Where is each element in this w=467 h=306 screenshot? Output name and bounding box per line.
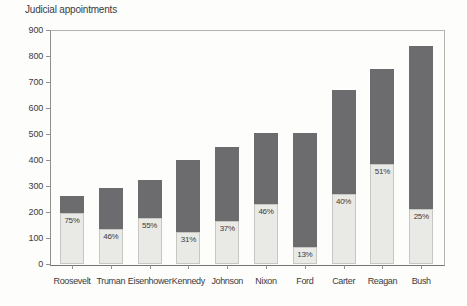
x-tick-mark — [227, 265, 228, 269]
bar-roosevelt: 75% — [60, 196, 84, 264]
x-tick-label-reagan: Reagan — [368, 276, 397, 286]
bar-percent-label: 75% — [61, 216, 83, 225]
y-tick-label: 200 — [11, 207, 43, 218]
bar-segment-light: 13% — [293, 247, 317, 264]
bar-percent-label: 13% — [294, 250, 316, 259]
y-tick-label: 100 — [11, 233, 43, 244]
bar-segment-light: 25% — [409, 209, 433, 264]
bar-bush: 25% — [409, 46, 433, 264]
bar-johnson: 37% — [215, 147, 239, 264]
bar-segment-light: 37% — [215, 221, 239, 264]
bar-carter: 40% — [332, 90, 356, 264]
bar-segment-light: 46% — [254, 204, 278, 264]
bar-kennedy: 31% — [176, 160, 200, 264]
y-tick-mark — [46, 108, 50, 109]
bar-percent-label: 46% — [100, 232, 122, 241]
bar-segment-light: 75% — [60, 213, 84, 264]
bar-segment-light: 55% — [138, 218, 162, 264]
x-tick-mark — [150, 265, 151, 269]
bar-percent-label: 51% — [371, 167, 393, 176]
y-tick-mark — [46, 212, 50, 213]
x-tick-label-eisenhower: Eisenhower — [128, 276, 172, 286]
bar-truman: 46% — [99, 188, 123, 264]
bar-percent-label: 46% — [255, 207, 277, 216]
x-tick-mark — [111, 265, 112, 269]
x-tick-mark — [72, 265, 73, 269]
y-tick-mark — [46, 264, 50, 265]
y-tick-mark — [46, 30, 50, 31]
chart-title: Judicial appointments — [25, 4, 117, 15]
judicial-appointments-chart: Judicial appointments 010020030040050060… — [0, 0, 467, 306]
y-tick-label: 300 — [11, 181, 43, 192]
y-tick-mark — [46, 56, 50, 57]
bar-segment-light: 40% — [332, 194, 356, 264]
y-tick-mark — [46, 238, 50, 239]
bar-segment-light: 51% — [370, 164, 394, 264]
x-tick-mark — [421, 265, 422, 269]
bar-ford: 13% — [293, 133, 317, 264]
y-tick-label: 700 — [11, 77, 43, 88]
x-tick-label-truman: Truman — [97, 276, 126, 286]
x-tick-label-kennedy: Kennedy — [172, 276, 205, 286]
bar-percent-label: 37% — [216, 224, 238, 233]
bar-reagan: 51% — [370, 69, 394, 264]
x-tick-mark — [344, 265, 345, 269]
y-tick-label: 900 — [11, 25, 43, 36]
bar-percent-label: 55% — [139, 221, 161, 230]
bar-segment-light: 31% — [176, 232, 200, 264]
y-tick-mark — [46, 82, 50, 83]
bar-eisenhower: 55% — [138, 180, 162, 264]
bar-percent-label: 25% — [410, 212, 432, 221]
x-tick-label-bush: Bush — [412, 276, 431, 286]
y-tick-label: 0 — [11, 259, 43, 270]
bar-percent-label: 40% — [333, 197, 355, 206]
x-tick-label-johnson: Johnson — [211, 276, 243, 286]
y-tick-mark — [46, 186, 50, 187]
bar-percent-label: 31% — [177, 235, 199, 244]
y-tick-mark — [46, 134, 50, 135]
x-tick-mark — [266, 265, 267, 269]
bar-nixon: 46% — [254, 133, 278, 264]
y-tick-label: 800 — [11, 51, 43, 62]
y-tick-label: 500 — [11, 129, 43, 140]
x-tick-label-roosevelt: Roosevelt — [54, 276, 91, 286]
x-tick-mark — [188, 265, 189, 269]
y-tick-label: 400 — [11, 155, 43, 166]
x-tick-label-nixon: Nixon — [255, 276, 276, 286]
y-tick-mark — [46, 160, 50, 161]
x-tick-mark — [305, 265, 306, 269]
x-tick-label-carter: Carter — [332, 276, 355, 286]
y-tick-label: 600 — [11, 103, 43, 114]
x-tick-mark — [382, 265, 383, 269]
bar-segment-light: 46% — [99, 229, 123, 264]
x-tick-label-ford: Ford — [296, 276, 313, 286]
